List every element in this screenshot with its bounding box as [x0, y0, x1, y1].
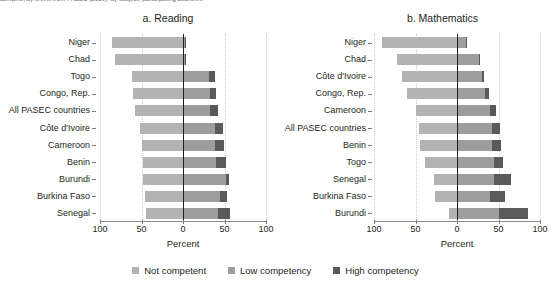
panel-title-mathematics: b. Mathematics: [276, 12, 551, 24]
y-axis-tick: [92, 111, 96, 112]
legend-swatch-icon: [228, 267, 235, 274]
bar-segment-low-competency: [183, 71, 209, 82]
x-axis-tick-mark: [100, 220, 101, 224]
bar-segment-low-competency: [183, 88, 210, 99]
x-axis-tick-mark: [142, 220, 143, 224]
plot-area-mathematics: [374, 34, 540, 222]
bar-segment-low-competency: [183, 157, 216, 168]
bar-segment-not-competent: [397, 54, 457, 65]
bar-segment-low-competency: [457, 37, 466, 48]
legend-swatch-icon: [132, 267, 139, 274]
bar-segment-not-competent: [132, 71, 183, 82]
bar-segment-high-competency: [215, 123, 223, 134]
y-axis-label: Burkina Faso: [37, 191, 90, 202]
bar-segment-low-competency: [457, 174, 494, 185]
legend-label: Not competent: [144, 265, 206, 276]
y-axis-label: Burundi: [335, 208, 366, 219]
zero-reference-line: [457, 34, 458, 222]
bar-segment-high-competency: [494, 174, 511, 185]
bar-segment-not-competent: [145, 191, 183, 202]
bar-segment-low-competency: [457, 71, 482, 82]
x-axis-tick-label: 50: [219, 224, 229, 234]
bar-segment-low-competency: [457, 123, 492, 134]
bar-segment-high-competency: [492, 123, 500, 134]
x-axis-tick-label: 100: [532, 224, 547, 234]
x-axis-tick-mark: [540, 220, 541, 224]
y-axis-label: Togo: [346, 157, 366, 168]
bar-segment-not-competent: [143, 157, 183, 168]
y-axis-label: Congo, Rep.: [315, 88, 366, 99]
bar-segment-low-competency: [457, 88, 485, 99]
grid-line: [540, 34, 542, 222]
bar-segment-not-competent: [420, 140, 457, 151]
y-axis-tick: [92, 196, 96, 197]
y-axis-tick: [368, 77, 372, 78]
y-axis-tick: [92, 128, 96, 129]
y-axis-label: Cameroon: [324, 105, 366, 116]
y-axis-labels-reading: NigerChadTogoCongo, Rep.All PASEC countr…: [0, 34, 96, 222]
bar-segment-not-competent: [140, 123, 183, 134]
bar-segment-high-competency: [490, 191, 505, 202]
zero-reference-line: [183, 34, 184, 222]
y-axis-tick: [92, 43, 96, 44]
bar-segment-high-competency: [226, 174, 228, 185]
bar-segment-not-competent: [135, 105, 183, 116]
bar-segment-high-competency: [485, 88, 488, 99]
bar-segment-not-competent: [435, 191, 457, 202]
y-axis-tick: [368, 128, 372, 129]
y-axis-tick: [92, 213, 96, 214]
y-axis-label: Burundi: [59, 174, 90, 185]
y-axis-tick: [368, 179, 372, 180]
bar-segment-not-competent: [419, 123, 457, 134]
bar-segment-low-competency: [183, 123, 215, 134]
x-axis-tick-mark: [374, 220, 375, 224]
y-axis-label: Senegal: [333, 174, 366, 185]
figure-caption: competency levels from PASEC (2019), by …: [0, 0, 551, 6]
y-axis-label: All PASEC countries: [9, 105, 90, 116]
bar-segment-not-competent: [402, 71, 457, 82]
bar-segment-not-competent: [146, 208, 183, 219]
bar-segment-high-competency: [220, 191, 227, 202]
x-axis-title-mathematics: Percent: [374, 238, 540, 249]
y-axis-tick: [368, 60, 372, 61]
y-axis-label: Togo: [70, 71, 90, 82]
x-axis-tick-label: 100: [92, 224, 107, 234]
y-axis-tick: [368, 94, 372, 95]
y-axis-label: All PASEC countries: [285, 123, 366, 134]
bar-segment-not-competent: [449, 208, 457, 219]
y-axis-tick: [368, 111, 372, 112]
bar-segment-high-competency: [479, 54, 481, 65]
y-axis-label: Niger: [68, 37, 90, 48]
y-axis-label: Benin: [343, 140, 366, 151]
x-axis-tick-mark: [499, 220, 500, 224]
y-axis-label: Chad: [344, 54, 366, 65]
x-axis-tick-mark: [183, 220, 184, 224]
bar-segment-low-competency: [183, 208, 218, 219]
x-axis-title-reading: Percent: [100, 238, 266, 249]
panel-mathematics: b. Mathematics NigerChadCôte d'IvoireCon…: [276, 12, 551, 260]
y-axis-tick: [92, 162, 96, 163]
bar-segment-high-competency: [216, 157, 226, 168]
y-axis-label: Senegal: [57, 208, 90, 219]
bar-segment-low-competency: [457, 54, 479, 65]
y-axis-tick: [368, 196, 372, 197]
bar-segment-low-competency: [183, 140, 215, 151]
x-axis-ticks-mathematics: 10050050100: [374, 224, 540, 238]
bar-segment-high-competency: [215, 140, 225, 151]
x-axis-tick-mark: [266, 220, 267, 224]
bar-segment-high-competency: [494, 157, 503, 168]
y-axis-label: Cameroon: [48, 140, 90, 151]
y-axis-tick: [92, 60, 96, 61]
x-axis-tick-label: 50: [410, 224, 420, 234]
legend-item: Low competency: [228, 265, 311, 276]
y-axis-tick: [368, 145, 372, 146]
legend-swatch-icon: [333, 267, 340, 274]
bar-segment-high-competency: [210, 88, 217, 99]
x-axis-tick-label: 0: [180, 224, 185, 234]
x-axis-tick-mark: [416, 220, 417, 224]
y-axis-label: Côte d'Ivoire: [316, 71, 366, 82]
y-axis-label: Chad: [68, 54, 90, 65]
bar-segment-high-competency: [209, 71, 215, 82]
y-axis-label: Congo, Rep.: [39, 88, 90, 99]
x-axis-tick-label: 100: [258, 224, 273, 234]
